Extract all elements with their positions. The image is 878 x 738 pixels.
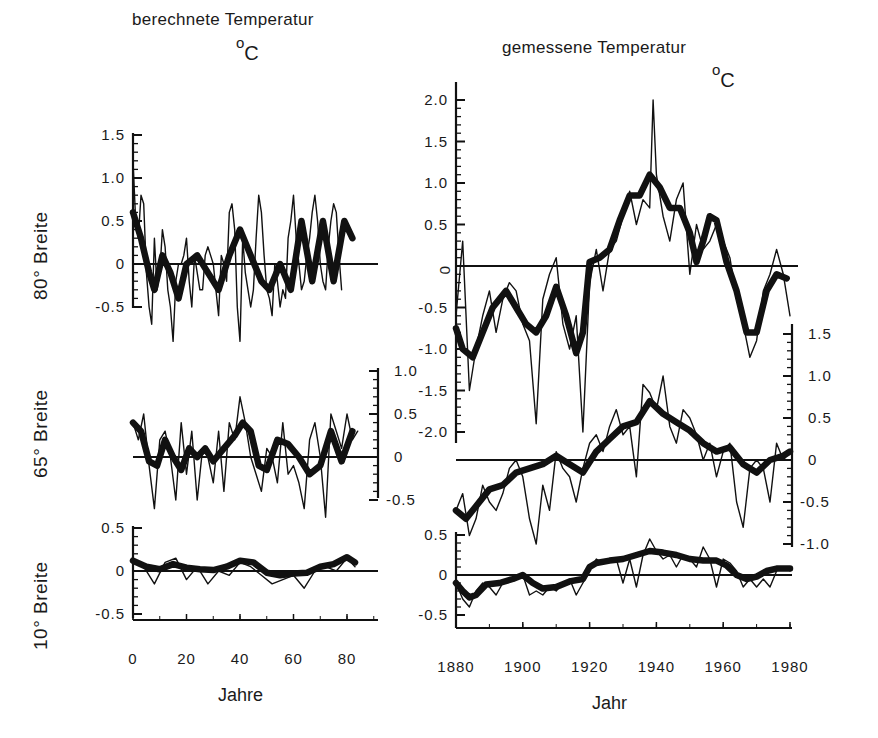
svg-text:0: 0 (439, 566, 448, 583)
svg-text:-1.0: -1.0 (800, 535, 830, 552)
svg-text:0: 0 (116, 562, 125, 579)
svg-text:0: 0 (808, 451, 817, 468)
svg-text:-0.5: -0.5 (418, 299, 448, 316)
svg-text:80: 80 (338, 650, 357, 667)
svg-text:40: 40 (231, 650, 250, 667)
svg-text:1.0: 1.0 (394, 362, 418, 379)
svg-text:-0.5: -0.5 (418, 606, 448, 623)
svg-text:1940: 1940 (638, 658, 675, 675)
svg-text:1880: 1880 (437, 658, 474, 675)
svg-text:-1.0: -1.0 (418, 340, 448, 357)
svg-text:1.0: 1.0 (101, 169, 125, 186)
svg-text:-2.0: -2.0 (418, 423, 448, 440)
svg-text:0: 0 (394, 448, 403, 465)
svg-text:20: 20 (177, 650, 196, 667)
svg-text:0.5: 0.5 (394, 405, 418, 422)
svg-text:1.0: 1.0 (808, 367, 832, 384)
svg-text:2.0: 2.0 (424, 91, 448, 108)
svg-text:0.5: 0.5 (424, 526, 448, 543)
annual-series-line (133, 161, 342, 342)
svg-text:1.5: 1.5 (808, 325, 832, 342)
svg-text:0.5: 0.5 (808, 409, 832, 426)
series-layer (133, 100, 790, 607)
svg-text:-0.5: -0.5 (95, 605, 125, 622)
svg-text:0.5: 0.5 (424, 216, 448, 233)
svg-text:1.5: 1.5 (424, 133, 448, 150)
svg-text:-1.5: -1.5 (418, 382, 448, 399)
svg-text:1960: 1960 (705, 658, 742, 675)
temperature-chart: 1.51.00.50-0.51.00.50-0.50.50-0.50204060… (0, 0, 878, 738)
svg-text:0: 0 (116, 255, 125, 272)
smoothed-series-line (133, 557, 355, 575)
svg-text:-0.5: -0.5 (95, 298, 125, 315)
svg-text:1.0: 1.0 (424, 174, 448, 191)
svg-text:1980: 1980 (771, 658, 808, 675)
svg-text:1.5: 1.5 (101, 126, 125, 143)
svg-text:0.5: 0.5 (101, 212, 125, 229)
svg-text:0: 0 (437, 266, 454, 275)
svg-text:1920: 1920 (571, 658, 608, 675)
svg-text:0.5: 0.5 (101, 519, 125, 536)
svg-text:0: 0 (128, 650, 137, 667)
svg-text:-0.5: -0.5 (386, 491, 416, 508)
svg-text:1900: 1900 (504, 658, 541, 675)
svg-text:60: 60 (284, 650, 303, 667)
svg-text:-0.5: -0.5 (800, 493, 830, 510)
